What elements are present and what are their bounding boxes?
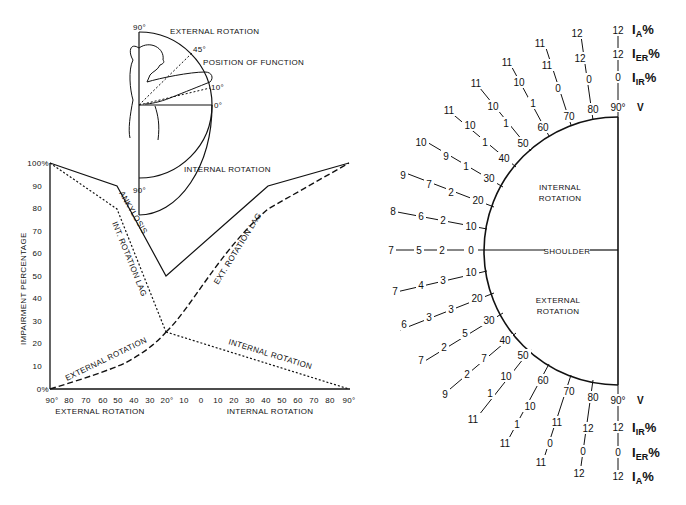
- svg-text:10: 10: [500, 371, 512, 382]
- y-tick: 80: [33, 204, 43, 213]
- shoulder-label: SHOULDER: [544, 247, 591, 256]
- spoke-er-20: 20 3 3 6: [399, 292, 485, 330]
- svg-text:10: 10: [465, 267, 477, 278]
- annotation-ext-rotation-lag: EXT. ROTATION LAG: [212, 211, 263, 286]
- series-internal-rotation: [166, 332, 349, 389]
- svg-text:3: 3: [440, 275, 446, 286]
- svg-text:70: 70: [563, 111, 575, 122]
- legend-ier-top: IER%: [632, 46, 660, 63]
- svg-text:70: 70: [563, 386, 575, 397]
- y-tick: 70: [33, 227, 43, 236]
- x-tick: 80: [64, 396, 74, 405]
- svg-text:2: 2: [439, 245, 445, 256]
- spoke-er-80: 80 12 0 12: [571, 391, 601, 479]
- svg-text:11: 11: [444, 105, 455, 116]
- legend-ia-top: IA%: [632, 22, 654, 39]
- svg-text:12: 12: [573, 468, 585, 479]
- svg-text:5: 5: [416, 245, 422, 256]
- x-tick: 30: [245, 396, 255, 405]
- x-tick: 0: [199, 396, 204, 405]
- internal-rotation-label-1: INTERNAL: [539, 183, 581, 192]
- svg-text:4: 4: [418, 280, 424, 291]
- x-axis-label-external: EXTERNAL ROTATION: [55, 407, 144, 416]
- svg-text:7: 7: [392, 286, 398, 297]
- internal-rotation-values: 0 2 5 7 10 2 6 8 20 2 7 9 30 1 9 10 40 1…: [386, 24, 628, 256]
- y-tick: 10: [33, 362, 43, 371]
- upper-legend: IA% IER% IIR%: [632, 22, 660, 87]
- svg-text:50: 50: [517, 350, 529, 361]
- x-tick: 20: [229, 396, 239, 405]
- svg-text:3: 3: [426, 312, 432, 323]
- angle-90-bottom: 90°: [133, 186, 146, 195]
- label-external-rotation: EXTERNAL ROTATION: [170, 27, 259, 36]
- svg-text:7: 7: [426, 179, 432, 190]
- v-marker-top: V: [637, 102, 644, 113]
- y-tick: 20: [33, 339, 43, 348]
- svg-text:11: 11: [500, 438, 511, 449]
- external-rotation-label-1: EXTERNAL: [536, 296, 581, 305]
- x-tick: 10: [179, 396, 189, 405]
- svg-text:3: 3: [448, 304, 454, 315]
- spoke-ir-70: 70 0 11 11: [532, 37, 577, 122]
- y-tick: 60: [33, 249, 43, 258]
- shoulder-rotation-chart: SHOULDER INTERNAL ROTATION EXTERNAL ROTA…: [386, 22, 660, 486]
- svg-text:50: 50: [517, 138, 529, 149]
- svg-text:10: 10: [415, 137, 427, 148]
- svg-text:2: 2: [464, 369, 470, 380]
- lower-legend: IIR% IER% IA%: [632, 420, 660, 486]
- svg-text:9: 9: [443, 151, 449, 162]
- svg-text:0: 0: [615, 72, 621, 83]
- svg-text:0: 0: [555, 83, 561, 94]
- svg-text:11: 11: [535, 38, 546, 49]
- svg-text:40: 40: [499, 335, 511, 346]
- svg-text:1: 1: [482, 137, 488, 148]
- spoke-er-60: 60 10 1 11: [497, 374, 551, 449]
- svg-text:1: 1: [463, 161, 469, 172]
- spoke-er-70: 70 11 0 11: [533, 385, 577, 468]
- y-tick-labels: 100% 90 80 70 60 50 40 30 20 10 0%: [27, 159, 49, 394]
- svg-text:10: 10: [464, 120, 476, 131]
- y-tick: 40: [33, 294, 43, 303]
- svg-text:11: 11: [471, 78, 482, 89]
- angle-10: 10°: [211, 83, 224, 92]
- y-axis-label: IMPAIRMENT PERCENTAGE: [19, 232, 28, 345]
- y-tick: 100%: [27, 159, 49, 168]
- svg-text:20: 20: [471, 293, 483, 304]
- x-tick: 90°: [46, 396, 59, 405]
- svg-text:1: 1: [503, 118, 509, 129]
- svg-text:60: 60: [537, 375, 549, 386]
- y-tick: 0%: [37, 385, 49, 394]
- x-tick: 40: [129, 396, 139, 405]
- svg-text:11: 11: [468, 414, 479, 425]
- svg-text:7: 7: [481, 353, 487, 364]
- x-tick: 70: [81, 396, 91, 405]
- x-tick: 70: [309, 396, 319, 405]
- x-tick: 50: [113, 396, 123, 405]
- svg-text:8: 8: [390, 206, 396, 217]
- x-tick-labels: 90° 80 70 60 50 40 30 20° 10 0 10 20 30 …: [46, 396, 356, 405]
- y-tick: 90: [33, 182, 43, 191]
- svg-text:7: 7: [418, 355, 424, 366]
- svg-text:40: 40: [498, 153, 510, 164]
- svg-text:80: 80: [587, 392, 599, 403]
- svg-text:10: 10: [465, 221, 477, 232]
- svg-text:6: 6: [418, 211, 424, 222]
- legend-iir-top: IIR%: [632, 70, 657, 87]
- annotation-internal-rotation: INTERNAL ROTATION: [227, 337, 313, 371]
- svg-text:5: 5: [462, 328, 468, 339]
- y-tick: 50: [33, 272, 43, 281]
- external-rotation-label-2: ROTATION: [537, 307, 580, 316]
- svg-text:11: 11: [552, 417, 563, 428]
- impairment-chart: 100% 90 80 70 60 50 40 30 20 10 0% IMPAI…: [19, 159, 356, 416]
- arm-rotation-diagram: 90° EXTERNAL ROTATION 45° POSITION OF FU…: [129, 23, 304, 215]
- svg-text:10: 10: [524, 401, 536, 412]
- svg-text:12: 12: [612, 471, 624, 482]
- annotation-external-rotation: EXTERNAL ROTATION: [64, 336, 148, 383]
- svg-text:11: 11: [502, 57, 513, 68]
- svg-text:90°: 90°: [610, 395, 625, 406]
- svg-text:10: 10: [487, 101, 499, 112]
- svg-text:2: 2: [440, 215, 446, 226]
- svg-text:0: 0: [468, 245, 474, 256]
- svg-text:12: 12: [571, 28, 583, 39]
- x-tick: 20°: [161, 396, 174, 405]
